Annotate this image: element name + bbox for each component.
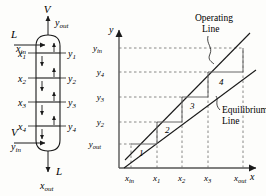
figure-svg: V yout L xin: [0, 0, 266, 196]
stage-number-1: 1: [139, 148, 144, 158]
stage-number-2: 2: [165, 125, 170, 135]
label-y3: y3: [67, 97, 76, 110]
label-top-feed-L: L: [10, 28, 17, 40]
ytick-label-y-3: y3: [96, 92, 105, 103]
ytick-label-y-out: yout: [88, 139, 102, 150]
label-bottom-flow-L: L: [55, 165, 62, 177]
label-top-composition-yout: yout: [54, 17, 69, 30]
ytick-label-y-in: yin: [92, 43, 102, 54]
annotation-operating-line-1: Operating: [195, 13, 233, 23]
label-y2: y2: [67, 73, 76, 86]
column-shell: [36, 35, 60, 151]
ytick-label-y-2: y2: [96, 117, 105, 128]
ytick-label-y-4: y4: [96, 67, 105, 78]
mccabe-thiele-chart: y x yin y4 y3 y2 yout xin x1 x2 x3: [88, 13, 266, 184]
xtick-label-x-3: x3: [203, 173, 212, 184]
label-bottom-composition-xout: xout: [39, 180, 54, 193]
chart-y-axis-label: y: [108, 24, 114, 35]
label-top-flow-V: V: [44, 3, 52, 15]
annotation-operating-line-2: Line: [202, 24, 219, 34]
xtick-label-x-out: xout: [233, 173, 247, 184]
stage-staircase: [131, 48, 243, 144]
xtick-label-x-2: x2: [177, 173, 186, 184]
stage-number-4: 4: [219, 77, 224, 87]
label-x3: x3: [17, 97, 26, 110]
label-y4: y4: [67, 121, 76, 134]
chart-x-axis-label: x: [249, 171, 255, 182]
label-x4: x4: [17, 121, 26, 134]
xtick-label-x-1: x1: [152, 173, 160, 184]
label-y1: y1: [67, 48, 76, 61]
absorption-column: V yout L xin: [10, 3, 76, 193]
annotation-equilibrium-line-2: Line: [222, 116, 239, 126]
xtick-label-x-in: xin: [124, 173, 134, 184]
label-x2: x2: [17, 73, 26, 86]
annotation-operating-leader: [208, 36, 214, 64]
stage-number-3: 3: [189, 101, 195, 111]
figure-root: V yout L xin: [0, 0, 266, 196]
annotation-equilibrium-line-1: Equilibrium: [222, 105, 266, 115]
